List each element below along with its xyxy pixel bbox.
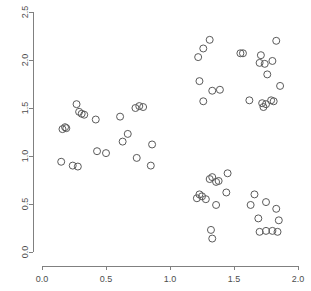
data-point: [274, 228, 281, 235]
data-point: [247, 201, 254, 208]
data-point: [73, 101, 80, 108]
scatter-plot-figure: 0.00.51.01.52.02.5 0.00.51.01.52.0: [0, 0, 311, 291]
data-point: [58, 158, 65, 165]
data-point: [216, 86, 223, 93]
data-point: [223, 189, 230, 196]
data-point: [251, 191, 258, 198]
data-point: [209, 235, 216, 242]
data-point: [119, 138, 126, 145]
data-point: [206, 36, 213, 43]
x-tick-label: 0.0: [36, 274, 49, 284]
y-tick-label: 0.5: [20, 198, 30, 211]
data-point: [196, 78, 203, 85]
series-cluster-1: [58, 101, 156, 170]
data-point: [270, 98, 277, 105]
data-point: [209, 87, 216, 94]
data-point: [92, 116, 99, 123]
data-point: [263, 199, 270, 206]
data-point: [103, 150, 110, 157]
data-point: [273, 37, 280, 44]
x-axis: 0.00.51.01.52.0: [36, 266, 305, 284]
data-point: [224, 170, 231, 177]
y-axis: 0.00.51.01.52.02.5: [20, 6, 33, 259]
data-point: [255, 215, 262, 222]
data-point: [273, 205, 280, 212]
x-tick-label: 2.0: [292, 274, 305, 284]
data-points-layer: [58, 36, 284, 242]
x-tick-label: 1.5: [228, 274, 241, 284]
y-tick-label: 2.0: [20, 54, 30, 67]
data-point: [200, 45, 207, 52]
x-tick-label: 1.0: [164, 274, 177, 284]
y-tick-label: 1.5: [20, 102, 30, 115]
data-point: [264, 71, 271, 78]
y-tick-label: 1.0: [20, 150, 30, 163]
data-point: [200, 98, 207, 105]
series-cluster-3: [193, 170, 282, 242]
data-point: [269, 57, 276, 64]
y-tick-label: 0.0: [20, 246, 30, 259]
data-point: [246, 97, 253, 104]
data-point: [213, 178, 220, 185]
data-point: [124, 130, 131, 137]
data-point: [117, 113, 124, 120]
data-point: [147, 162, 154, 169]
data-point: [133, 154, 140, 161]
data-point: [213, 201, 220, 208]
data-point: [94, 148, 101, 155]
x-tick-label: 0.5: [100, 274, 113, 284]
data-point: [256, 228, 263, 235]
data-point: [257, 52, 264, 59]
plot-canvas: 0.00.51.01.52.02.5 0.00.51.01.52.0: [0, 0, 311, 291]
data-point: [74, 163, 81, 170]
data-point: [207, 226, 214, 233]
y-tick-label: 2.5: [20, 6, 30, 19]
data-point: [277, 82, 284, 89]
data-point: [256, 59, 263, 66]
data-point: [275, 217, 282, 224]
data-point: [195, 54, 202, 61]
series-cluster-2: [195, 36, 284, 110]
data-point: [149, 141, 156, 148]
